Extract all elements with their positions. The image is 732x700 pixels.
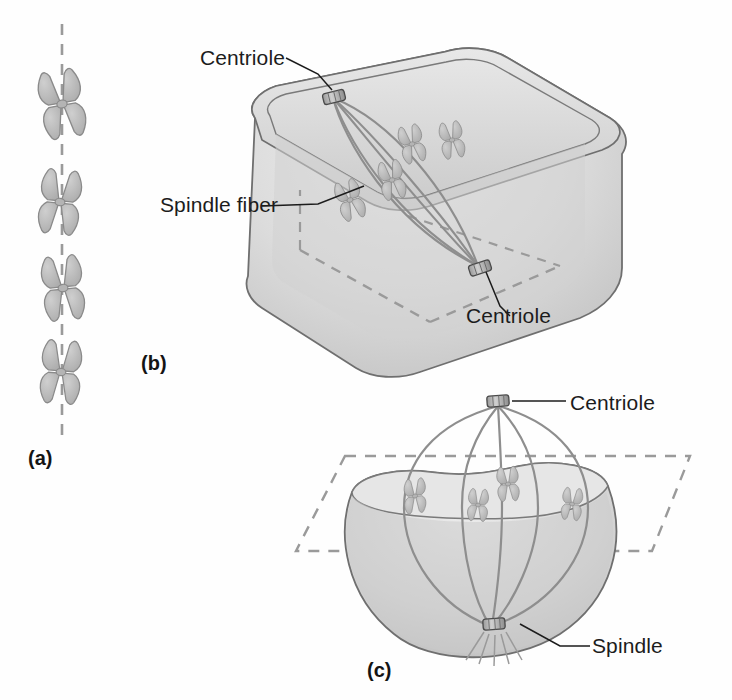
panel-c xyxy=(296,395,690,666)
figure-canvas xyxy=(0,0,732,700)
callout-centriole-c: Centriole xyxy=(570,391,655,415)
panel-letter-b: (b) xyxy=(141,352,167,375)
panel-letter-c: (c) xyxy=(367,659,391,682)
callout-spindle-c: Spindle xyxy=(592,634,663,658)
panel-a xyxy=(35,24,88,440)
centriole-icon xyxy=(487,395,510,408)
callout-centriole-b-bottom: Centriole xyxy=(466,304,551,328)
chromosome-icon xyxy=(37,168,84,236)
centriole-icon xyxy=(483,618,506,631)
panel-letter-a: (a) xyxy=(28,447,52,470)
callout-centriole-b-top: Centriole xyxy=(200,46,285,70)
callout-spindle-fiber: Spindle fiber xyxy=(160,193,278,217)
panel-b xyxy=(247,48,626,377)
